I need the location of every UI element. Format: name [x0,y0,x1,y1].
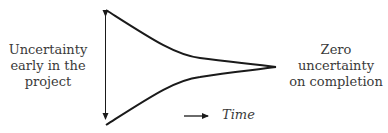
time-axis-label: Time [222,107,255,122]
early-uncertainty-label: Uncertainty early in the project [0,42,96,90]
left-label-line-2: early in the [0,58,96,74]
right-label-line-1: Zero [288,42,384,58]
right-label-line-3: on completion [288,74,384,90]
upper-uncertainty-curve [106,10,276,67]
right-label-line-2: uncertainty [288,58,384,74]
left-label-line-3: project [0,74,96,90]
zero-uncertainty-label: Zero uncertainty on completion [288,42,384,90]
left-label-line-1: Uncertainty [0,42,96,58]
